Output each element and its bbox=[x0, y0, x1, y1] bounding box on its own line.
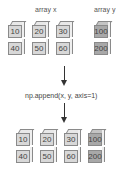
arrowhead-icon bbox=[61, 80, 67, 86]
cell: 20 bbox=[40, 129, 56, 144]
cell: 100 bbox=[94, 21, 110, 36]
arrow-down-icon bbox=[64, 66, 65, 80]
arrow-down-icon bbox=[64, 103, 65, 117]
cell: 200 bbox=[88, 146, 104, 161]
operation-label: np.append(x, y, axis=1) bbox=[25, 92, 97, 99]
cell: 10 bbox=[8, 21, 24, 36]
cell: 30 bbox=[56, 21, 72, 36]
array-x-label: array x bbox=[35, 6, 56, 13]
cell: 50 bbox=[32, 38, 48, 53]
cell: 200 bbox=[94, 38, 110, 53]
cell: 40 bbox=[16, 146, 32, 161]
cell: 20 bbox=[32, 21, 48, 36]
cell: 30 bbox=[64, 129, 80, 144]
cell: 60 bbox=[64, 146, 80, 161]
cell: 50 bbox=[40, 146, 56, 161]
array-y-label: array y bbox=[94, 6, 115, 13]
cell: 100 bbox=[88, 129, 104, 144]
cell: 10 bbox=[16, 129, 32, 144]
arrowhead-icon bbox=[61, 117, 67, 123]
cell: 40 bbox=[8, 38, 24, 53]
cell: 60 bbox=[56, 38, 72, 53]
